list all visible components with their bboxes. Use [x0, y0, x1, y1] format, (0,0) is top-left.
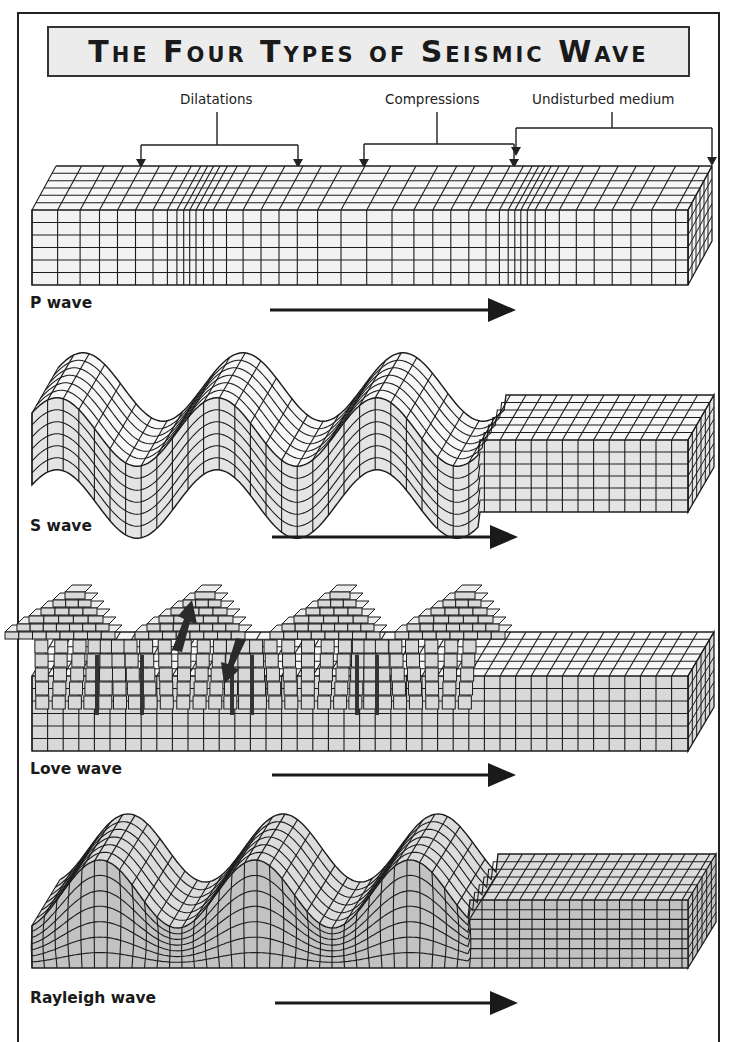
callout-brackets [141, 112, 712, 160]
arrow-right-icon [270, 298, 516, 322]
callout-arrowheads [136, 147, 717, 168]
arrow-right-icon [275, 991, 518, 1015]
s-wave-block [32, 353, 714, 538]
p-wave-block [32, 166, 712, 285]
arrow-right-icon [272, 763, 516, 787]
love-wave-block [5, 585, 714, 751]
rayleigh-wave-block [31, 814, 716, 968]
